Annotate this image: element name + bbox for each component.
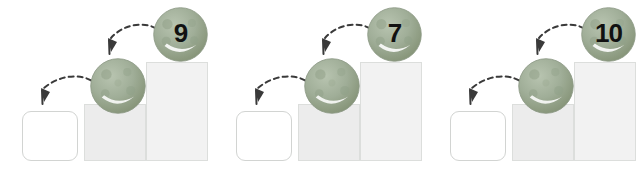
tall-box[interactable] bbox=[574, 62, 636, 161]
tall-box[interactable] bbox=[146, 62, 208, 161]
plain-ball-label bbox=[89, 57, 147, 115]
plain-ball[interactable] bbox=[89, 57, 147, 115]
numbered-ball-label: 10 bbox=[580, 6, 637, 63]
plain-ball[interactable] bbox=[517, 57, 575, 115]
empty-box[interactable] bbox=[22, 111, 78, 161]
numbered-ball-label: 7 bbox=[366, 6, 423, 63]
plain-ball-label bbox=[303, 57, 361, 115]
numbered-ball-label: 9 bbox=[152, 6, 209, 63]
tall-box[interactable] bbox=[360, 62, 422, 161]
numbered-ball[interactable]: 9 bbox=[152, 6, 209, 63]
exercise-group-3: 10 bbox=[428, 0, 642, 181]
empty-box[interactable] bbox=[450, 111, 506, 161]
worksheet-canvas: 9 bbox=[0, 0, 642, 181]
exercise-group-1: 9 bbox=[0, 0, 214, 181]
plain-ball[interactable] bbox=[303, 57, 361, 115]
numbered-ball[interactable]: 7 bbox=[366, 6, 423, 63]
numbered-ball[interactable]: 10 bbox=[580, 6, 637, 63]
empty-box[interactable] bbox=[236, 111, 292, 161]
exercise-group-2: 7 bbox=[214, 0, 428, 181]
plain-ball-label bbox=[517, 57, 575, 115]
